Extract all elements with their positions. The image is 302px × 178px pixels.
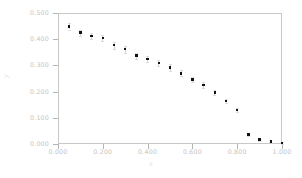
error-bar-cap: [124, 46, 127, 47]
data-point: [202, 84, 205, 87]
data-point: [270, 140, 273, 143]
error-bar-cap: [169, 71, 172, 72]
error-bar-cap: [146, 62, 149, 63]
error-bar-cap: [157, 66, 160, 67]
error-bar-cap: [79, 36, 82, 37]
error-bar-cap: [135, 59, 138, 60]
chart-figure: 0.0000.1000.2000.3000.4000.500 0.0000.20…: [0, 0, 302, 178]
data-point: [90, 35, 93, 38]
error-bar-cap: [157, 60, 160, 61]
data-point: [102, 37, 105, 40]
error-bar-cap: [202, 88, 205, 89]
data-point: [146, 58, 149, 61]
error-bar-cap: [124, 53, 127, 54]
data-point: [135, 54, 138, 57]
data-point: [281, 142, 284, 145]
data-series: [0, 0, 302, 178]
x-axis-title: x: [0, 160, 302, 168]
y-axis-title: y: [2, 61, 10, 91]
error-bar-cap: [101, 35, 104, 36]
error-bar-cap: [113, 49, 116, 50]
error-bar-cap: [236, 112, 239, 113]
data-point: [158, 62, 161, 65]
error-bar-cap: [258, 141, 261, 142]
data-point: [79, 31, 82, 34]
error-bar-cap: [180, 76, 183, 77]
data-point: [180, 72, 183, 75]
data-point: [191, 78, 194, 81]
error-bar-cap: [68, 30, 71, 31]
error-bar-cap: [213, 95, 216, 96]
error-bar-cap: [68, 23, 71, 24]
error-bar-cap: [113, 42, 116, 43]
data-point: [258, 138, 261, 141]
data-point: [169, 66, 172, 69]
error-bar-cap: [247, 136, 250, 137]
error-bar-cap: [225, 103, 228, 104]
data-point: [113, 44, 116, 47]
data-point: [247, 133, 250, 136]
data-point: [214, 91, 217, 94]
data-point: [68, 25, 71, 28]
data-point: [225, 100, 228, 103]
error-bar-cap: [90, 33, 93, 34]
error-bar-cap: [101, 41, 104, 42]
data-point: [236, 109, 239, 112]
error-bar-cap: [191, 82, 194, 83]
error-bar-cap: [90, 39, 93, 40]
data-point: [124, 48, 127, 51]
